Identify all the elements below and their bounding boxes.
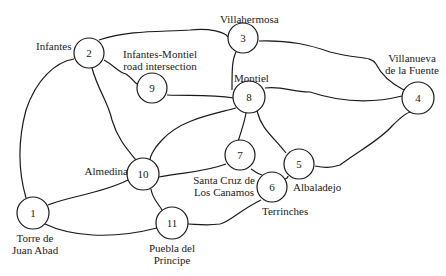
node-9: 9 xyxy=(137,73,167,103)
edge-2-3 xyxy=(99,29,228,40)
label-line: Santa Cruz de xyxy=(187,174,261,186)
svg-text:8: 8 xyxy=(246,91,252,103)
node-5: 5 xyxy=(284,149,314,179)
edge-3-8 xyxy=(232,52,236,90)
label-line: Juan Abad xyxy=(12,244,58,256)
node-6: 6 xyxy=(257,172,287,202)
label-line: road intersection xyxy=(120,60,200,72)
edge-1-11 xyxy=(45,224,157,235)
svg-text:7: 7 xyxy=(237,149,243,161)
edge-1-10 xyxy=(48,180,128,205)
svg-text:6: 6 xyxy=(269,181,275,193)
edge-8-4 xyxy=(265,88,402,101)
label-line: Villanueva xyxy=(379,52,445,64)
edge-2-10 xyxy=(92,68,136,160)
svg-text:2: 2 xyxy=(86,47,92,59)
edge-6-11 xyxy=(188,200,261,225)
label-santa-cruz-de-los-canamos: Santa Cruz de Los Canamos xyxy=(187,174,261,198)
svg-text:5: 5 xyxy=(296,158,302,170)
label-puebla-del-principe: Puebla del Principe xyxy=(144,242,200,266)
label-line: Torre de xyxy=(12,232,58,244)
label-infantes: Infantes xyxy=(36,40,71,52)
edge-8-10 xyxy=(150,108,236,160)
edge-9-8 xyxy=(167,95,234,98)
svg-text:10: 10 xyxy=(138,168,150,180)
node-3: 3 xyxy=(228,23,258,53)
label-villanueva-de-la-fuente: Villanueva de la Fuente xyxy=(379,52,445,76)
edge-1-2 xyxy=(20,59,74,198)
label-montiel: Montiel xyxy=(234,72,269,84)
label-terrinches: Terrinches xyxy=(262,205,308,217)
road-network-diagram: 1 2 3 4 5 6 7 8 9 10 11 Torre de Juan Ab… xyxy=(0,0,446,276)
svg-text:3: 3 xyxy=(240,32,246,44)
label-line: Los Canamos xyxy=(187,186,261,198)
node-7: 7 xyxy=(225,140,255,170)
node-8: 8 xyxy=(233,81,265,113)
svg-text:1: 1 xyxy=(30,207,36,219)
label-line: Principe xyxy=(144,254,200,266)
svg-text:4: 4 xyxy=(415,92,421,104)
node-10: 10 xyxy=(127,158,159,190)
edge-8-5 xyxy=(257,111,286,153)
node-2: 2 xyxy=(74,38,104,68)
label-line: de la Fuente xyxy=(379,64,445,76)
node-1: 1 xyxy=(17,197,49,229)
label-torre-de-juan-abad: Torre de Juan Abad xyxy=(12,232,58,256)
label-infantes-montiel-road-intersection: Infantes-Montiel road intersection xyxy=(120,48,200,72)
node-4: 4 xyxy=(402,82,434,114)
edge-8-7 xyxy=(238,113,246,142)
label-line: Puebla del xyxy=(144,242,200,254)
edge-10-11 xyxy=(151,189,162,210)
label-villahermosa: Villahermosa xyxy=(220,13,279,25)
edge-5-4 xyxy=(315,112,411,167)
node-11: 11 xyxy=(156,207,188,239)
label-albaladejo: Albaladejo xyxy=(293,181,341,193)
svg-text:9: 9 xyxy=(149,82,155,94)
label-line: Infantes-Montiel xyxy=(120,48,200,60)
edge-6-5 xyxy=(285,176,288,179)
label-almedina: Almedina xyxy=(80,165,128,177)
svg-text:11: 11 xyxy=(167,217,178,229)
